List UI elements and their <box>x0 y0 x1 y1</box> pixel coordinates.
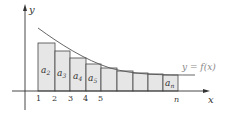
tick-labels: 1 2 3 4 5 n <box>36 94 179 104</box>
svg-text:n: n <box>174 95 179 104</box>
y-arrow-icon <box>23 4 27 11</box>
x-arrow-icon <box>203 89 210 93</box>
x-axis-label: x <box>208 94 214 105</box>
y-axis-label: y <box>28 4 35 15</box>
curve-label: y = f(x) <box>181 62 216 72</box>
svg-text:3: 3 <box>68 94 73 103</box>
svg-text:1: 1 <box>36 94 41 103</box>
riemann-sum-diagram: y x y = f(x) 1 2 3 4 5 n a2 a3 a4 a5 an <box>0 0 228 115</box>
svg-text:2: 2 <box>52 94 57 103</box>
svg-text:5: 5 <box>98 94 103 103</box>
svg-text:4: 4 <box>83 94 88 103</box>
